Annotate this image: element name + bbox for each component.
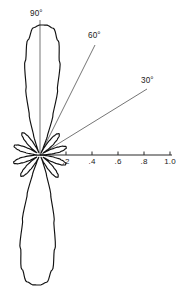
radial-tick-label: .8 (141, 157, 148, 166)
angle-label-30: 30° (141, 76, 154, 85)
polar-plot-svg: .2.4.6.81.0 90°60°30° (0, 0, 179, 292)
radial-tick-label: 1.0 (164, 157, 176, 166)
radial-tick-label: .4 (89, 157, 96, 166)
radial-tick-label: .6 (115, 157, 122, 166)
polar-chart-figure: .2.4.6.81.0 90°60°30° (0, 0, 179, 292)
angle-label-90: 90° (30, 9, 43, 18)
angle-label-60: 60° (88, 31, 101, 40)
radial-axis-ticks: .2.4.6.81.0 (63, 152, 177, 167)
angle-line-60 (40, 45, 95, 155)
angle-labels: 90°60°30° (30, 9, 154, 85)
